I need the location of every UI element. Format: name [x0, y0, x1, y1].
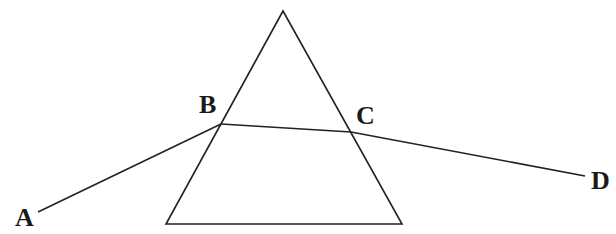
label-b: B — [199, 90, 216, 119]
label-c: C — [356, 101, 375, 130]
label-d: D — [591, 166, 610, 195]
refracted-ray-bc — [221, 124, 351, 132]
emergent-ray-cd — [351, 132, 585, 176]
label-a: A — [15, 203, 34, 232]
incident-ray-ab — [38, 124, 221, 212]
prism-diagram: A B C D — [0, 0, 616, 234]
